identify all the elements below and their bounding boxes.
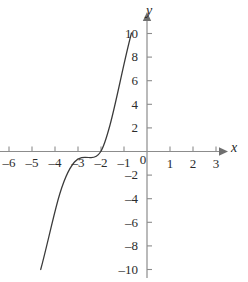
x-tick-label-1: 1 <box>160 157 180 170</box>
x-tick-label-3: 3 <box>206 157 226 170</box>
y-tick-label-minus10: –10 <box>108 263 138 276</box>
y-tick-label-2: 2 <box>116 121 138 134</box>
x-axis-label: x <box>231 141 237 155</box>
y-tick-label-4: 4 <box>116 98 138 111</box>
x-tick-label-minus1: –1 <box>112 156 136 169</box>
x-tick-label-minus6: –6 <box>0 156 21 169</box>
y-axis-label: y <box>146 4 152 18</box>
y-tick-label-minus6: –6 <box>112 216 138 229</box>
y-tick-label-minus8: –8 <box>112 239 138 252</box>
x-tick-label-minus4: –4 <box>43 156 67 169</box>
x-axis-ticks <box>9 147 216 152</box>
origin-tick-label: 0 <box>137 153 149 166</box>
graph-figure: y x 0 10 8 6 4 2 –2 –4 –6 –8 –10 –6 –5 –… <box>0 0 248 282</box>
x-axis-arrow-icon <box>219 147 228 156</box>
x-tick-label-minus5: –5 <box>20 156 44 169</box>
y-tick-label-8: 8 <box>116 50 138 63</box>
x-tick-label-2: 2 <box>183 157 203 170</box>
x-tick-label-minus2: –2 <box>89 156 113 169</box>
y-tick-label-6: 6 <box>116 74 138 87</box>
x-tick-label-minus3: –3 <box>66 156 90 169</box>
y-tick-label-10: 10 <box>116 27 138 40</box>
y-tick-label-minus4: –4 <box>112 192 138 205</box>
